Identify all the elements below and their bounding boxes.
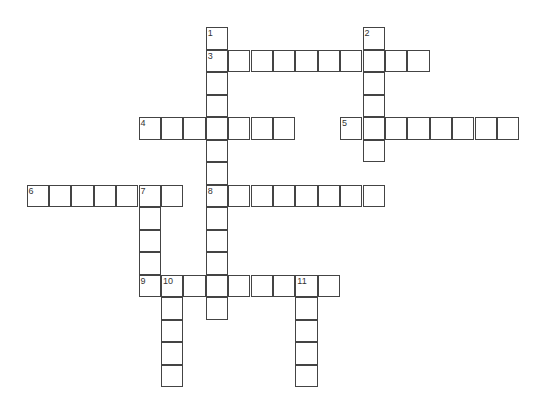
crossword-cell[interactable]	[139, 252, 161, 275]
crossword-cell[interactable]	[161, 320, 183, 343]
crossword-cell[interactable]	[206, 230, 228, 253]
crossword-cell[interactable]	[295, 50, 317, 73]
cell-letter-input[interactable]	[476, 118, 496, 139]
cell-letter-input[interactable]	[162, 298, 182, 319]
crossword-cell[interactable]	[161, 342, 183, 365]
cell-letter-input[interactable]	[274, 276, 294, 297]
crossword-cell[interactable]	[206, 117, 228, 140]
cell-letter-input[interactable]	[274, 186, 294, 207]
cell-letter-input[interactable]	[364, 141, 384, 162]
cell-letter-input[interactable]	[207, 73, 227, 94]
cell-letter-input[interactable]	[28, 186, 48, 207]
crossword-cell[interactable]	[139, 230, 161, 253]
cell-letter-input[interactable]	[364, 28, 384, 49]
cell-letter-input[interactable]	[296, 321, 316, 342]
cell-letter-input[interactable]	[207, 28, 227, 49]
cell-letter-input[interactable]	[386, 51, 406, 72]
cell-letter-input[interactable]	[207, 118, 227, 139]
cell-letter-input[interactable]	[341, 186, 361, 207]
crossword-cell[interactable]: 4	[139, 117, 161, 140]
crossword-cell[interactable]: 8	[206, 185, 228, 208]
crossword-cell[interactable]	[295, 185, 317, 208]
cell-letter-input[interactable]	[117, 186, 137, 207]
crossword-cell[interactable]	[206, 275, 228, 298]
cell-letter-input[interactable]	[162, 321, 182, 342]
cell-letter-input[interactable]	[207, 276, 227, 297]
cell-letter-input[interactable]	[341, 51, 361, 72]
cell-letter-input[interactable]	[408, 51, 428, 72]
crossword-cell[interactable]	[71, 185, 93, 208]
crossword-cell[interactable]	[273, 50, 295, 73]
crossword-cell[interactable]	[206, 95, 228, 118]
crossword-cell[interactable]	[161, 365, 183, 388]
cell-letter-input[interactable]	[207, 231, 227, 252]
crossword-cell[interactable]: 10	[161, 275, 183, 298]
crossword-cell[interactable]	[228, 50, 250, 73]
cell-letter-input[interactable]	[296, 276, 316, 297]
crossword-cell[interactable]	[363, 50, 385, 73]
crossword-cell[interactable]: 1	[206, 27, 228, 50]
cell-letter-input[interactable]	[386, 118, 406, 139]
cell-letter-input[interactable]	[95, 186, 115, 207]
cell-letter-input[interactable]	[229, 118, 249, 139]
cell-letter-input[interactable]	[184, 118, 204, 139]
cell-letter-input[interactable]	[162, 366, 182, 387]
cell-letter-input[interactable]	[319, 276, 339, 297]
cell-letter-input[interactable]	[364, 73, 384, 94]
cell-letter-input[interactable]	[364, 186, 384, 207]
crossword-cell[interactable]	[206, 297, 228, 320]
crossword-cell[interactable]	[228, 275, 250, 298]
cell-letter-input[interactable]	[252, 276, 272, 297]
crossword-cell[interactable]	[273, 275, 295, 298]
cell-letter-input[interactable]	[140, 208, 160, 229]
crossword-cell[interactable]	[363, 117, 385, 140]
crossword-cell[interactable]	[206, 72, 228, 95]
crossword-cell[interactable]	[318, 185, 340, 208]
crossword-cell[interactable]	[430, 117, 452, 140]
crossword-cell[interactable]	[407, 117, 429, 140]
crossword-cell[interactable]: 3	[206, 50, 228, 73]
crossword-cell[interactable]	[385, 117, 407, 140]
cell-letter-input[interactable]	[162, 276, 182, 297]
crossword-cell[interactable]	[161, 297, 183, 320]
crossword-cell[interactable]: 6	[27, 185, 49, 208]
crossword-cell[interactable]	[497, 117, 519, 140]
cell-letter-input[interactable]	[274, 118, 294, 139]
cell-letter-input[interactable]	[364, 118, 384, 139]
cell-letter-input[interactable]	[207, 298, 227, 319]
cell-letter-input[interactable]	[162, 118, 182, 139]
cell-letter-input[interactable]	[140, 276, 160, 297]
crossword-cell[interactable]	[295, 320, 317, 343]
crossword-cell[interactable]	[340, 50, 362, 73]
crossword-cell[interactable]	[206, 162, 228, 185]
crossword-cell[interactable]	[475, 117, 497, 140]
cell-letter-input[interactable]	[252, 118, 272, 139]
crossword-cell[interactable]	[363, 185, 385, 208]
crossword-cell[interactable]	[318, 275, 340, 298]
crossword-cell[interactable]: 5	[340, 117, 362, 140]
cell-letter-input[interactable]	[296, 51, 316, 72]
cell-letter-input[interactable]	[207, 253, 227, 274]
crossword-cell[interactable]	[295, 297, 317, 320]
cell-letter-input[interactable]	[498, 118, 518, 139]
cell-letter-input[interactable]	[140, 253, 160, 274]
cell-letter-input[interactable]	[408, 118, 428, 139]
cell-letter-input[interactable]	[319, 51, 339, 72]
cell-letter-input[interactable]	[431, 118, 451, 139]
crossword-cell[interactable]	[116, 185, 138, 208]
crossword-cell[interactable]	[385, 50, 407, 73]
cell-letter-input[interactable]	[140, 231, 160, 252]
crossword-cell[interactable]	[206, 252, 228, 275]
crossword-cell[interactable]	[161, 117, 183, 140]
crossword-cell[interactable]	[251, 50, 273, 73]
cell-letter-input[interactable]	[274, 51, 294, 72]
cell-letter-input[interactable]	[319, 186, 339, 207]
crossword-cell[interactable]	[407, 50, 429, 73]
crossword-cell[interactable]	[340, 185, 362, 208]
crossword-cell[interactable]	[228, 185, 250, 208]
cell-letter-input[interactable]	[296, 298, 316, 319]
crossword-cell[interactable]	[161, 185, 183, 208]
crossword-cell[interactable]: 9	[139, 275, 161, 298]
cell-letter-input[interactable]	[184, 276, 204, 297]
crossword-cell[interactable]	[251, 117, 273, 140]
